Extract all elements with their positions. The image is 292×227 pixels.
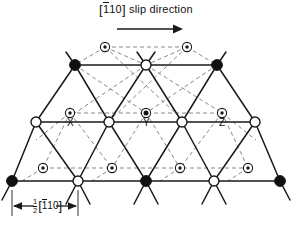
- circled-dot-atom: [100, 42, 109, 51]
- open-circle-atom: [31, 117, 41, 127]
- bracket-close-icon: ]: [58, 198, 62, 213]
- open-circle-atom: [73, 176, 83, 186]
- open-circle-atom: [250, 117, 260, 127]
- filled-circle-atom: [275, 176, 286, 187]
- scale-miller-bar-digit: 1: [42, 200, 48, 211]
- atom-label-z: Z: [219, 117, 225, 128]
- filled-circle-atom: [7, 176, 18, 187]
- open-circle-atom: [141, 60, 151, 70]
- atom-label-y: Y: [143, 117, 150, 128]
- filled-circle-atom: [141, 176, 152, 187]
- scale-miller-rest: 10: [47, 200, 58, 211]
- circled-dot-atom: [38, 163, 47, 172]
- filled-circle-atom: [70, 60, 81, 71]
- circled-dot-atom: [182, 42, 191, 51]
- open-circle-atom: [104, 117, 114, 127]
- figure-root: [110] slip direction: [0, 0, 292, 227]
- open-circle-atom: [209, 176, 219, 186]
- lattice-canvas: [0, 0, 292, 227]
- one-half-fraction: 1 2: [33, 198, 37, 214]
- filled-circle-atom: [212, 60, 223, 71]
- circled-dot-atom: [175, 163, 184, 172]
- circled-dot-atom: [107, 163, 116, 172]
- atom-label-x: X: [67, 117, 74, 128]
- circled-dot-atom: [243, 163, 252, 172]
- open-circle-atom: [177, 117, 187, 127]
- right-arrow-icon: [117, 25, 183, 34]
- scale-bar-label: 1 2 [110]: [33, 198, 62, 215]
